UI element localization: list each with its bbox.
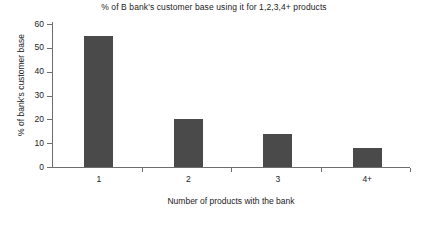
y-axis-tick-label: 0 bbox=[22, 163, 44, 172]
x-axis-tick-label: 3 bbox=[258, 174, 298, 184]
x-axis-tick-label: 4+ bbox=[347, 174, 387, 184]
bar bbox=[263, 134, 292, 167]
bar bbox=[174, 119, 203, 167]
bar bbox=[353, 148, 382, 167]
y-axis-tick bbox=[47, 143, 52, 144]
y-axis-tick bbox=[47, 96, 52, 97]
x-axis-tick bbox=[410, 168, 411, 172]
bar-chart: % of B bank's customer base using it for… bbox=[0, 0, 428, 225]
x-axis-tick-label: 2 bbox=[168, 174, 208, 184]
y-axis-title: % of bank's customer base bbox=[16, 10, 26, 160]
y-axis-tick bbox=[47, 119, 52, 120]
x-axis-tick bbox=[142, 168, 143, 172]
y-axis-tick bbox=[47, 167, 52, 168]
x-axis-title: Number of products with the bank bbox=[52, 196, 410, 206]
y-axis-tick bbox=[47, 72, 52, 73]
x-axis-tick bbox=[321, 168, 322, 172]
y-axis-tick bbox=[47, 48, 52, 49]
y-axis-tick bbox=[47, 24, 52, 25]
x-axis-tick bbox=[231, 168, 232, 172]
y-axis-line bbox=[52, 22, 53, 168]
y-axis-tick-label-text: 0 bbox=[22, 163, 44, 172]
x-axis-tick-label: 1 bbox=[79, 174, 119, 184]
bar bbox=[84, 36, 113, 167]
chart-title: % of B bank's customer base using it for… bbox=[0, 2, 428, 13]
